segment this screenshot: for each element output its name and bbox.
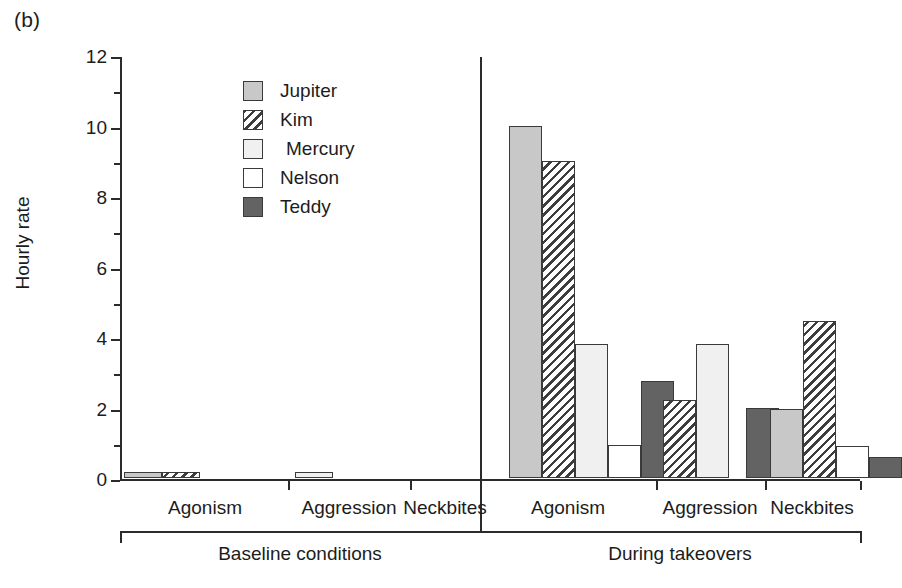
x-label-takeover-neckbites: Neckbites xyxy=(770,497,853,519)
legend-item-teddy: Teddy xyxy=(243,192,355,221)
legend-label-mercury: Mercury xyxy=(286,138,355,160)
x-label-baseline-neckbites: Neckbites xyxy=(403,497,486,519)
bar-takeover-neckbites-nelson xyxy=(836,446,869,478)
x-tick-takeover-end xyxy=(860,481,862,490)
bar-takeover-agonism-jupiter xyxy=(509,126,542,479)
condition-label-takeover: During takeovers xyxy=(608,543,752,565)
y-tick-label-10: 10 xyxy=(86,117,107,139)
x-tick-takeover-2 xyxy=(765,481,767,490)
bar-baseline-aggression-mercury xyxy=(295,472,333,478)
panel-label: (b) xyxy=(14,8,40,32)
y-tick-label-2: 2 xyxy=(96,399,107,421)
y-axis-label: Hourly rate xyxy=(12,158,34,328)
legend-item-mercury: Mercury xyxy=(243,134,355,163)
legend-swatch-nelson-icon xyxy=(243,168,263,188)
y-axis-line xyxy=(120,57,122,481)
x-label-takeover-agonism: Agonism xyxy=(531,497,605,519)
legend: Jupiter Kim Mercury Nelson Teddy xyxy=(243,76,355,221)
condition-divider xyxy=(480,57,482,481)
x-label-baseline-agonism: Agonism xyxy=(168,497,242,519)
x-tick-baseline-2 xyxy=(410,481,412,490)
legend-item-nelson: Nelson xyxy=(243,163,355,192)
x-label-baseline-aggression: Aggression xyxy=(301,497,396,519)
x-tick-baseline-1 xyxy=(288,481,290,490)
x-label-takeover-aggression: Aggression xyxy=(662,497,757,519)
legend-swatch-jupiter-icon xyxy=(243,81,263,101)
bar-takeover-neckbites-teddy xyxy=(869,457,902,478)
y-tick-label-12: 12 xyxy=(86,46,107,68)
y-tick-label-6: 6 xyxy=(96,258,107,280)
legend-item-jupiter: Jupiter xyxy=(243,76,355,105)
baseline-bracket xyxy=(120,531,480,533)
bar-baseline-agonism-kim xyxy=(162,472,200,478)
bar-takeover-aggression-kim xyxy=(663,400,696,478)
y-tick-label-4: 4 xyxy=(96,328,107,350)
legend-swatch-mercury-icon xyxy=(243,139,263,159)
bar-takeover-agonism-kim xyxy=(542,161,575,478)
baseline-bracket-left xyxy=(120,531,122,543)
bar-takeover-agonism-mercury xyxy=(575,344,608,478)
y-tick-label-8: 8 xyxy=(96,187,107,209)
bar-takeover-aggression-mercury xyxy=(696,344,729,478)
bar-takeover-agonism-nelson xyxy=(608,445,641,478)
legend-item-kim: Kim xyxy=(243,105,355,134)
x-tick-takeover-1 xyxy=(656,481,658,490)
bar-takeover-neckbites-jupiter xyxy=(770,409,803,478)
legend-swatch-kim-icon xyxy=(243,110,263,130)
bar-baseline-agonism-jupiter xyxy=(124,472,162,478)
takeover-bracket-right xyxy=(860,531,862,543)
bar-takeover-neckbites-kim xyxy=(803,321,836,478)
legend-label-jupiter: Jupiter xyxy=(280,80,337,102)
x-axis-line xyxy=(120,479,860,481)
legend-swatch-teddy-icon xyxy=(243,197,263,217)
legend-label-teddy: Teddy xyxy=(280,196,331,218)
y-tick-label-0: 0 xyxy=(96,469,107,491)
condition-label-baseline: Baseline conditions xyxy=(218,543,382,565)
legend-label-nelson: Nelson xyxy=(280,167,339,189)
legend-label-kim: Kim xyxy=(280,109,313,131)
plot-area: 12 10 8 6 4 2 0 xyxy=(120,57,862,480)
takeover-bracket xyxy=(480,531,862,533)
